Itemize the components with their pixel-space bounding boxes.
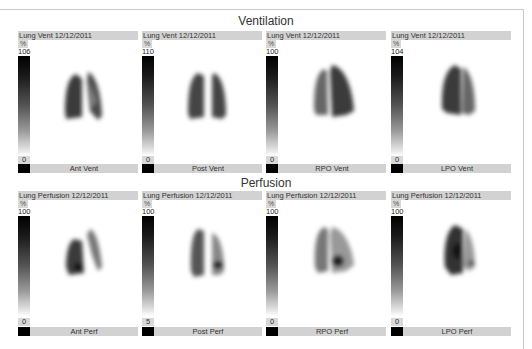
grayscale-colorbar [142, 216, 154, 316]
scale-black-swatch [18, 327, 30, 336]
view-label: LPO Perf [403, 327, 511, 336]
scale-max: 110 [142, 48, 154, 56]
panel-header: Lung Perfusion 12/12/2011 [18, 191, 138, 200]
grayscale-colorbar [266, 56, 278, 156]
panel-header: Lung Vent 12/12/2011 [18, 31, 138, 40]
scale-max: 106 [18, 48, 30, 56]
panel-lpo-perf[interactable]: Lung Perfusion 12/12/2011 % 100 0 LPO Pe… [391, 191, 511, 329]
view-label: Ant Perf [30, 327, 138, 336]
lung-scan-image [405, 41, 509, 156]
grayscale-colorbar [266, 216, 278, 316]
grayscale-colorbar [18, 56, 30, 156]
grayscale-colorbar [391, 216, 403, 316]
panel-rpo-perf[interactable]: Lung Perfusion 12/12/2011 % 100 0 RPO Pe… [266, 191, 386, 329]
scale-max: 104 [391, 48, 403, 56]
panel-ant-perf[interactable]: Lung Perfusion 12/12/2011 % 100 0 Ant Pe… [18, 191, 138, 329]
scale-min: 5 [142, 318, 154, 326]
view-label: Post Perf [154, 327, 262, 336]
panel-header: Lung Vent 12/12/2011 [142, 31, 262, 40]
scale-max: 100 [391, 208, 403, 216]
view-label: RPO Perf [278, 327, 386, 336]
scale-black-swatch [142, 164, 154, 173]
lung-scan-image [405, 201, 509, 316]
scale-min: 0 [142, 156, 154, 164]
scale-black-swatch [142, 327, 154, 336]
scale-black-swatch [18, 164, 30, 173]
panel-ant-vent[interactable]: Lung Vent 12/12/2011 % 106 0 Ant Vent [18, 31, 138, 166]
scale-max: 100 [142, 208, 154, 216]
panel-post-perf[interactable]: Lung Perfusion 12/12/2011 % 100 5 Post P… [142, 191, 262, 329]
panel-header: Lung Perfusion 12/12/2011 [391, 191, 511, 200]
scale-max: 100 [18, 208, 30, 216]
scale-black-swatch [266, 327, 278, 336]
scale-min: 0 [18, 318, 30, 326]
grayscale-colorbar [142, 56, 154, 156]
panel-post-vent[interactable]: Lung Vent 12/12/2011 % 110 0 Post Vent [142, 31, 262, 166]
lung-scan-image [32, 41, 136, 156]
view-label: RPO Vent [278, 164, 386, 173]
grayscale-colorbar [391, 56, 403, 156]
scale-min: 0 [266, 318, 278, 326]
lung-scan-image [280, 41, 384, 156]
scale-max: 100 [266, 48, 278, 56]
scale-min: 0 [266, 156, 278, 164]
section-title-perfusion: Perfusion [0, 176, 532, 190]
scale-min: 0 [18, 156, 30, 164]
lung-scan-image [156, 41, 260, 156]
scale-black-swatch [391, 327, 403, 336]
panel-header: Lung Vent 12/12/2011 [266, 31, 386, 40]
view-label: LPO Vent [403, 164, 511, 173]
panel-lpo-vent[interactable]: Lung Vent 12/12/2011 % 104 0 LPO Vent [391, 31, 511, 166]
view-label: Post Vent [154, 164, 262, 173]
lung-scan-image [156, 201, 260, 316]
section-title-ventilation: Ventilation [0, 14, 532, 28]
view-label: Ant Vent [30, 164, 138, 173]
scale-black-swatch [266, 164, 278, 173]
scale-black-swatch [391, 164, 403, 173]
panel-header: Lung Vent 12/12/2011 [391, 31, 511, 40]
lung-scan-image [32, 201, 136, 316]
scale-max: 100 [266, 208, 278, 216]
scale-min: 0 [391, 318, 403, 326]
panel-rpo-vent[interactable]: Lung Vent 12/12/2011 % 100 0 RPO Vent [266, 31, 386, 166]
lung-scan-image [280, 201, 384, 316]
scale-min: 0 [391, 156, 403, 164]
panel-header: Lung Perfusion 12/12/2011 [266, 191, 386, 200]
grayscale-colorbar [18, 216, 30, 316]
panel-header: Lung Perfusion 12/12/2011 [142, 191, 262, 200]
